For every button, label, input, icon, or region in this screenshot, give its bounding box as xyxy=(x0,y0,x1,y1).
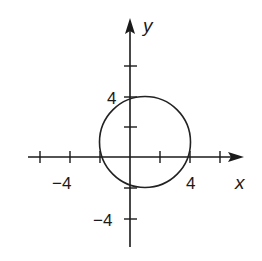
x-tick-label-4: 4 xyxy=(186,174,195,193)
circle-graph xyxy=(100,97,191,188)
y-axis xyxy=(124,18,137,247)
y-axis-label: y xyxy=(141,15,154,36)
coordinate-plane: y x 4 −4 −4 4 xyxy=(0,0,262,261)
x-axis xyxy=(28,151,244,163)
x-tick-label-neg4: −4 xyxy=(52,174,71,193)
y-tick-label-neg4: −4 xyxy=(93,211,112,230)
y-tick-label-4: 4 xyxy=(107,89,116,108)
x-axis-label: x xyxy=(234,172,246,193)
